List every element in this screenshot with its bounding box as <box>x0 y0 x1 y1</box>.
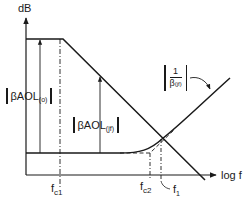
inverse-beta-pointer <box>190 77 210 89</box>
inverse-beta-fraction: 1 β(jf) <box>170 67 182 89</box>
loop-gain-f-label: βAOL(jf) <box>73 117 119 133</box>
f1-subscript: 1 <box>176 190 180 197</box>
y-axis-label: dB <box>18 3 31 14</box>
loop-gain-low-text: βAOL <box>11 90 39 102</box>
loop-gain-f-text: βAOL <box>78 119 106 131</box>
beta-subscript: (jf) <box>175 81 182 87</box>
x-axis-label: log f <box>221 170 242 181</box>
fraction-numerator: 1 <box>173 67 178 77</box>
abs-bar-right <box>117 117 119 133</box>
abs-bar-left <box>6 88 8 104</box>
fc2-label: fc2 <box>140 181 152 192</box>
inverse-beta-curve <box>26 78 230 153</box>
loop-gain-low-subscript: (o) <box>39 96 48 103</box>
abs-bar-right <box>186 65 188 91</box>
abs-bar-left <box>164 65 166 91</box>
fc1-label: fc1 <box>51 183 63 194</box>
abs-bar-left <box>73 117 75 133</box>
f1-pointer <box>161 181 170 189</box>
abs-bar-right <box>50 88 52 104</box>
loop-gain-f-subscript: (jf) <box>106 125 114 132</box>
fc1-subscript: c1 <box>54 188 62 197</box>
loop-gain-low-label: βAOL(o) <box>6 88 52 104</box>
inverse-beta-label: 1 β(jf) <box>164 65 187 91</box>
f1-label: f1 <box>173 184 180 195</box>
open-loop-gain-curve <box>26 39 205 180</box>
fc2-subscript: c2 <box>143 186 151 195</box>
fraction-denominator: β(jf) <box>170 77 182 89</box>
